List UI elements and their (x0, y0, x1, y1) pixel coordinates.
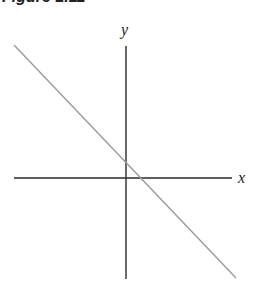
graph-line (14, 45, 236, 278)
y-axis-label: y (119, 21, 129, 39)
coordinate-diagram: y x (0, 0, 266, 292)
x-axis-label: x (237, 169, 245, 186)
